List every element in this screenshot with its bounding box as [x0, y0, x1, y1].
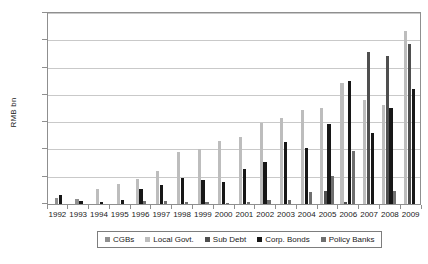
bar [412, 89, 415, 204]
x-axis-tick-label: 1997 [151, 210, 172, 219]
x-axis-tick-mark [192, 205, 213, 209]
x-axis-tick-label: 2003 [276, 210, 297, 219]
legend-swatch-icon [145, 237, 150, 242]
x-axis-ticks [47, 205, 421, 209]
x-axis-tick-mark [338, 205, 359, 209]
legend-item[interactable]: Local Govt. [145, 235, 193, 244]
bar [408, 44, 411, 204]
x-axis-tick-mark [47, 205, 68, 209]
bar-group [89, 13, 110, 204]
x-axis-tick-mark [213, 205, 234, 209]
x-axis-tick-mark [255, 205, 276, 209]
bar [79, 201, 82, 204]
bar [185, 202, 188, 204]
legend-swatch-icon [257, 237, 262, 242]
bar [284, 142, 287, 204]
bar-group [255, 13, 276, 204]
bar [121, 200, 124, 204]
x-axis-tick-mark [89, 205, 110, 209]
bar [177, 152, 180, 204]
bar [136, 179, 139, 204]
legend-swatch-icon [205, 237, 210, 242]
legend-swatch-icon [321, 237, 326, 242]
x-axis-tick-label: 1992 [47, 210, 68, 219]
bar [382, 105, 385, 204]
bar [320, 108, 323, 204]
x-axis-tick-label: 2000 [213, 210, 234, 219]
x-axis-tick-label: 2002 [255, 210, 276, 219]
x-axis-tick-label: 1998 [172, 210, 193, 219]
bar [301, 110, 304, 204]
bar [348, 81, 351, 204]
bar [55, 198, 58, 204]
bar [247, 202, 250, 204]
bar [367, 52, 370, 204]
bar-group [131, 13, 152, 204]
bar [143, 201, 146, 204]
legend-item[interactable]: Sub Debt [205, 235, 246, 244]
bar [386, 56, 389, 204]
x-axis-tick-labels: 1992199319941995199619971998199920002001… [47, 210, 421, 219]
x-axis-tick-mark [172, 205, 193, 209]
x-axis-tick-label: 2009 [400, 210, 421, 219]
bar-group [234, 13, 255, 204]
x-axis-tick-mark [151, 205, 172, 209]
bar [393, 191, 396, 204]
bar-chart: RMB bn 02004006008001,0001,2001,400 1992… [0, 0, 428, 264]
x-axis-tick-label: 2008 [380, 210, 401, 219]
bar-group [275, 13, 296, 204]
legend-item[interactable]: CGBs [105, 235, 134, 244]
bar-group [317, 13, 338, 204]
bar-group [337, 13, 358, 204]
legend-item[interactable]: Corp. Bonds [257, 235, 309, 244]
x-axis-tick-mark [130, 205, 151, 209]
bar [331, 176, 334, 204]
plot-area [47, 12, 421, 205]
x-axis-tick-label: 2005 [317, 210, 338, 219]
x-axis-tick-mark [380, 205, 401, 209]
legend-label: Local Govt. [153, 235, 193, 244]
bar [389, 108, 392, 204]
chart-legend: CGBsLocal Govt.Sub DebtCorp. BondsPolicy… [97, 231, 382, 248]
bar [243, 169, 246, 204]
x-axis-tick-mark [276, 205, 297, 209]
bar [309, 192, 312, 204]
bar [263, 162, 266, 204]
legend-item[interactable]: Policy Banks [321, 235, 375, 244]
x-axis-tick-label: 2001 [234, 210, 255, 219]
x-axis-tick-label: 1993 [68, 210, 89, 219]
bar-group [193, 13, 214, 204]
x-axis-tick-mark [234, 205, 255, 209]
bar [205, 202, 208, 204]
x-axis-tick-label: 1994 [89, 210, 110, 219]
bar-group [358, 13, 379, 204]
bar-group [213, 13, 234, 204]
bar [324, 191, 327, 204]
legend-swatch-icon [105, 237, 110, 242]
bar [340, 83, 343, 204]
x-axis-tick-label: 1999 [192, 210, 213, 219]
bar [164, 201, 167, 204]
x-axis-tick-mark [400, 205, 421, 209]
bar [181, 178, 184, 204]
bar [201, 180, 204, 204]
bar [75, 199, 78, 204]
bar [371, 133, 374, 204]
bar-groups [48, 13, 420, 204]
bar [59, 195, 62, 204]
x-axis-tick-mark [109, 205, 130, 209]
bar [117, 184, 120, 204]
bar-group [296, 13, 317, 204]
bar [260, 123, 263, 204]
bar [363, 100, 366, 205]
bar-group [399, 13, 420, 204]
bar-group [69, 13, 90, 204]
bar [156, 171, 159, 204]
bar-group [110, 13, 131, 204]
x-axis-tick-mark [296, 205, 317, 209]
bar [404, 31, 407, 204]
bar-group [48, 13, 69, 204]
legend-label: Corp. Bonds [265, 235, 309, 244]
bar [305, 148, 308, 204]
legend-label: CGBs [113, 235, 134, 244]
